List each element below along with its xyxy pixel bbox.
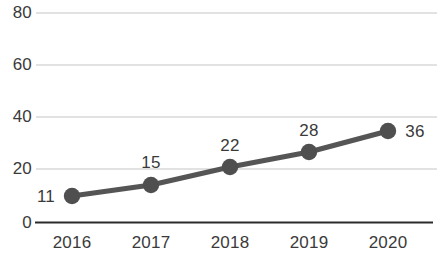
x-axis-tick-2016: 2016: [42, 234, 102, 251]
y-axis-tick-0: 0: [0, 214, 32, 231]
data-label-2019: 28: [292, 122, 326, 139]
y-axis-tick-40: 40: [0, 108, 32, 125]
y-axis-tick-60: 60: [0, 56, 32, 73]
data-point-2018: [222, 159, 238, 175]
x-axis-tick-2019: 2019: [279, 234, 339, 251]
x-axis-tick-2018: 2018: [200, 234, 260, 251]
y-axis-tick-20: 20: [0, 160, 32, 177]
data-label-2020: 36: [398, 123, 432, 140]
y-axis-tick-80: 80: [0, 4, 32, 21]
x-axis-tick-2020: 2020: [358, 234, 418, 251]
data-label-2017: 15: [134, 154, 168, 171]
data-point-2016: [64, 188, 80, 204]
data-label-2018: 22: [213, 137, 247, 154]
x-axis-tick-2017: 2017: [121, 234, 181, 251]
data-point-2020: [380, 123, 396, 139]
data-label-2016: 11: [29, 188, 63, 205]
data-point-2017: [143, 177, 159, 193]
line-chart: 80 60 40 20 0 2016 2017 2018 2019 2020 1…: [0, 0, 447, 268]
data-point-2019: [301, 144, 317, 160]
chart-canvas: [0, 0, 447, 268]
